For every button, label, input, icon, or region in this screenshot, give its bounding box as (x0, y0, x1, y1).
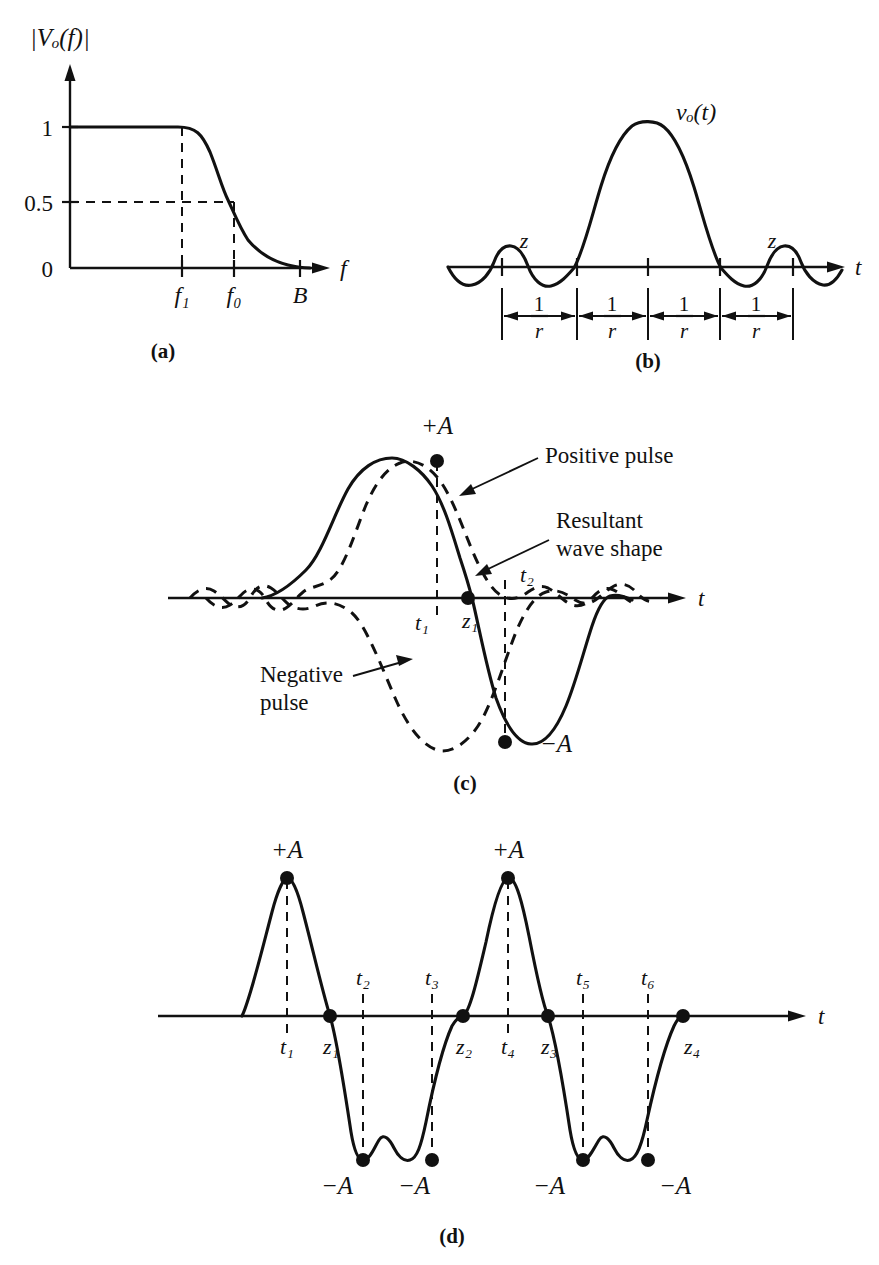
panel-b-zero-label-right: z (767, 228, 777, 253)
panel-a-x-axis-arrow (312, 263, 330, 274)
panel-a-ytick-label-05: 0.5 (24, 191, 53, 216)
panel-c-peak-label: +A (421, 412, 454, 439)
panel-c-time-label-t2: t₂ (520, 562, 534, 587)
panel-b-interval-numerator-1: 1 (534, 292, 545, 316)
panel-a-x-axis-label: f (340, 255, 350, 281)
panel-d-trough-marker-1 (356, 1153, 370, 1167)
panel-c-leader-positive-pulse (470, 458, 538, 490)
panel-b-dim-arrow-left-1 (504, 312, 518, 321)
panel-b-dimension-1: 1 r (504, 292, 575, 343)
panel-d-zero-marker-z4 (676, 1009, 690, 1023)
panel-b-dim-arrow-left-4 (722, 312, 736, 321)
panel-b-dimension-3: 1 r (650, 292, 718, 343)
panel-d-trough-label-2: −A (398, 1172, 431, 1199)
panel-d-trough-marker-3 (576, 1153, 590, 1167)
panel-b-interval-denominator-3: r (680, 319, 689, 343)
panel-b-interval-denominator-1: r (535, 319, 544, 343)
figure-svg: |Vₒ(f)| f 1 0.5 0 f₁ f₀ B (a) (0, 0, 879, 1265)
panel-c-leader-arrow-positive-pulse (459, 484, 476, 496)
panel-c-annotation-positive-pulse: Positive pulse (545, 443, 673, 468)
panel-d-peak-label-1: +A (271, 836, 304, 863)
panel-d-trough-marker-4 (641, 1153, 655, 1167)
panel-a-ytick-label-1: 1 (42, 116, 54, 141)
panel-a-xtick-label-B: B (293, 282, 308, 308)
panel-a: |Vₒ(f)| f 1 0.5 0 f₁ f₀ B (a) (24, 24, 350, 363)
panel-c-annotation-resultant: Resultant (556, 508, 643, 533)
panel-a-caption: (a) (151, 339, 176, 363)
panel-d-zero-label-z3: z₃ (540, 1034, 557, 1059)
panel-d-time-label-t3: t₃ (425, 965, 439, 990)
panel-c-leader-arrow-negative (396, 655, 413, 666)
panel-d-time-label-t4: t₄ (501, 1034, 515, 1059)
panel-d-time-label-t2: t₂ (356, 965, 370, 990)
panel-b-dim-arrow-left-3 (650, 312, 664, 321)
panel-d-caption: (d) (439, 1224, 465, 1248)
panel-a-ytick-label-0: 0 (42, 257, 54, 282)
panel-b-dimension-4: 1 r (722, 292, 791, 343)
panel-d-trough-label-3: −A (533, 1172, 566, 1199)
panel-c-time-label-t1: t₁ (415, 610, 429, 635)
panel-b-dim-arrow-right-1 (561, 312, 575, 321)
panel-d-peak-label-2: +A (492, 836, 525, 863)
panel-a-y-axis-arrow (65, 64, 76, 81)
panel-c-zero-label-z1: z₁ (461, 608, 478, 633)
panel-c-annotation-wave-shape: wave shape (556, 536, 663, 561)
panel-c-annotation-negative: Negative (260, 662, 343, 687)
panel-d-trough-label-1: −A (321, 1172, 354, 1199)
panel-d-x-axis-label: t (818, 1004, 825, 1029)
panel-b-dim-arrow-left-2 (579, 312, 593, 321)
panel-d-zero-marker-z2 (456, 1009, 470, 1023)
panel-c-peak-marker (430, 454, 444, 468)
panel-d-zero-label-z4: z₄ (683, 1034, 700, 1059)
panel-a-response-curve (70, 127, 310, 268)
panel-d-zero-label-z2: z₂ (455, 1034, 473, 1059)
panel-d-time-label-t6: t₆ (641, 965, 655, 990)
panel-c-x-axis-label: t (698, 586, 705, 611)
panel-b-impulse-response (448, 122, 842, 287)
panel-d-time-label-t1: t₁ (280, 1034, 294, 1059)
panel-b: t vₒ(t) z z 1 r (448, 99, 862, 373)
panel-a-y-axis-label: |Vₒ(f)| (30, 24, 90, 52)
panel-b-dim-arrow-right-4 (777, 312, 791, 321)
panel-d: t +A +A −A −A −A −A t₁ t₄ (158, 836, 825, 1248)
panel-d-trough-marker-2 (425, 1153, 439, 1167)
panel-c-annotation-pulse: pulse (260, 690, 309, 715)
panel-c-trough-label: −A (540, 730, 573, 757)
panel-d-time-label-t5: t₅ (576, 965, 590, 990)
panel-b-interval-numerator-2: 1 (607, 292, 618, 316)
panel-d-peak-marker-1 (280, 871, 294, 885)
panel-b-zero-label-left: z (519, 228, 529, 253)
panel-d-zero-label-z1: z₁ (322, 1034, 339, 1059)
panel-b-dim-arrow-right-2 (632, 312, 646, 321)
panel-c-zero-marker-z1 (461, 591, 475, 605)
panel-c-caption: (c) (453, 771, 476, 795)
panel-a-xtick-label-f0: f₀ (226, 282, 241, 308)
panel-b-interval-denominator-4: r (752, 319, 761, 343)
panel-b-interval-numerator-4: 1 (751, 292, 762, 316)
panel-a-xtick-label-f1: f₁ (174, 282, 189, 308)
panel-d-zero-marker-z1 (323, 1009, 337, 1023)
panel-b-interval-numerator-3: 1 (679, 292, 690, 316)
panel-b-dimension-2: 1 r (579, 292, 646, 343)
panel-d-peak-marker-2 (501, 871, 515, 885)
panel-c-leader-resultant (486, 540, 549, 570)
panel-d-x-axis-arrow (788, 1011, 806, 1022)
figure-container: |Vₒ(f)| f 1 0.5 0 f₁ f₀ B (a) (0, 0, 879, 1265)
panel-b-curve-label: vₒ(t) (676, 99, 716, 125)
panel-b-x-axis-label: t (855, 255, 862, 280)
panel-b-dim-arrow-right-3 (704, 312, 718, 321)
panel-c: t +A −A t₁ t₂ z₁ Positive pulse Resultan… (168, 412, 705, 795)
panel-c-trough-marker (498, 735, 512, 749)
panel-b-interval-denominator-2: r (608, 319, 617, 343)
panel-d-trough-label-4: −A (659, 1172, 692, 1199)
panel-b-caption: (b) (635, 349, 661, 373)
panel-c-leader-arrow-resultant (475, 564, 492, 576)
panel-c-x-axis-arrow (668, 593, 686, 604)
panel-c-leader-negative (353, 662, 402, 676)
panel-d-zero-marker-z3 (541, 1009, 555, 1023)
